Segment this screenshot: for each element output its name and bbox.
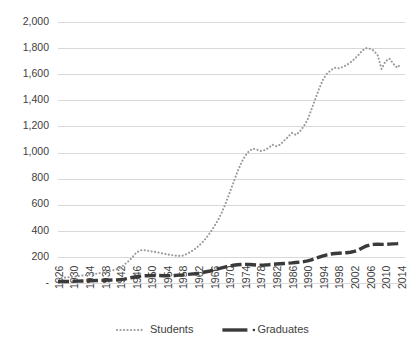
x-axis-tick-label: 1938	[100, 265, 112, 289]
y-axis-tick-label: 1,400	[23, 93, 49, 105]
data-series	[58, 48, 401, 282]
x-axis-tick-label: 2010	[380, 265, 392, 289]
x-axis-tick-label: 2002	[349, 265, 361, 289]
gridlines	[58, 23, 405, 284]
x-axis-labels: 1926193019341938194219461950195419581962…	[53, 265, 408, 289]
x-axis-tick-label: 1998	[333, 265, 345, 289]
x-axis-tick-label: 2006	[365, 265, 377, 289]
x-axis-tick-label: 1930	[68, 265, 80, 289]
x-axis-tick-label: 1926	[53, 265, 65, 289]
y-axis-tick-label: 1,200	[23, 119, 49, 131]
y-axis-tick-label: 1,800	[23, 41, 49, 53]
chart-legend: StudentsGraduates	[117, 323, 309, 335]
y-axis-tick-label: 200	[31, 250, 49, 262]
x-axis-tick-label: 2014	[396, 265, 408, 289]
x-axis-tick-label: 1990	[302, 265, 314, 289]
chart-container: -2004006008001,0001,2001,4001,6001,8002,…	[0, 0, 415, 349]
x-axis-tick-label: 1934	[84, 265, 96, 289]
y-axis-tick-label: 800	[31, 171, 49, 183]
x-axis-tick-label: 1958	[177, 265, 189, 289]
y-axis-tick-label: 1,600	[23, 67, 49, 79]
x-axis-tick-label: 1978	[255, 265, 267, 289]
y-axis-tick-label: 2,000	[23, 15, 49, 27]
x-axis-tick-label: 1962	[193, 265, 205, 289]
x-axis-tick-label: 1974	[240, 265, 252, 289]
legend-label-graduates: Graduates	[257, 323, 309, 335]
x-axis-tick-label: 1986	[287, 265, 299, 289]
y-axis-tick-label: -	[46, 276, 50, 288]
y-axis-labels: -2004006008001,0001,2001,4001,6001,8002,…	[23, 15, 50, 288]
legend-label-students: Students	[150, 323, 194, 335]
x-axis-tick-label: 1982	[271, 265, 283, 289]
y-axis-tick-label: 1,000	[23, 145, 49, 157]
y-axis-tick-label: 400	[31, 224, 49, 236]
series-line-students	[58, 48, 401, 278]
x-axis-tick-label: 1994	[318, 265, 330, 289]
legend-marker-dot	[253, 329, 256, 332]
y-axis-tick-label: 600	[31, 197, 49, 209]
x-axis-tick-label: 1970	[224, 265, 236, 289]
line-chart: -2004006008001,0001,2001,4001,6001,8002,…	[0, 0, 415, 349]
